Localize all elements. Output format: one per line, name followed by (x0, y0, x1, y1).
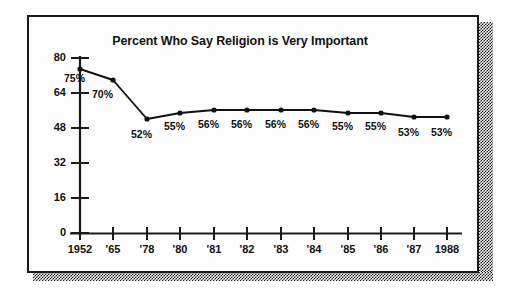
x-tick-label-1988: 1988 (427, 243, 467, 255)
y-tick-label-64: 64 (40, 86, 66, 98)
y-tick-label-80: 80 (40, 51, 66, 63)
data-label-80: 55% (164, 120, 185, 132)
data-label-87: 53% (398, 126, 419, 138)
data-label-1988: 53% (431, 126, 452, 138)
data-label-83: 56% (265, 118, 286, 130)
data-label-78: 52% (131, 128, 152, 140)
data-label-81: 56% (198, 118, 219, 130)
data-label-85: 55% (332, 120, 353, 132)
data-label-84: 56% (298, 118, 319, 130)
data-series-line (80, 69, 447, 119)
data-label-65: 70% (92, 88, 113, 100)
data-point-markers (77, 66, 449, 121)
data-label-1952: 75% (64, 72, 85, 84)
data-label-86: 55% (365, 120, 386, 132)
chart-screenshot: Percent Who Say Religion is Very Importa… (0, 0, 516, 296)
data-label-82: 56% (231, 118, 252, 130)
y-tick-label-32: 32 (40, 156, 66, 168)
y-tick-label-48: 48 (40, 121, 66, 133)
y-tick-label-16: 16 (40, 191, 66, 203)
y-tick-label-0: 0 (40, 226, 66, 238)
